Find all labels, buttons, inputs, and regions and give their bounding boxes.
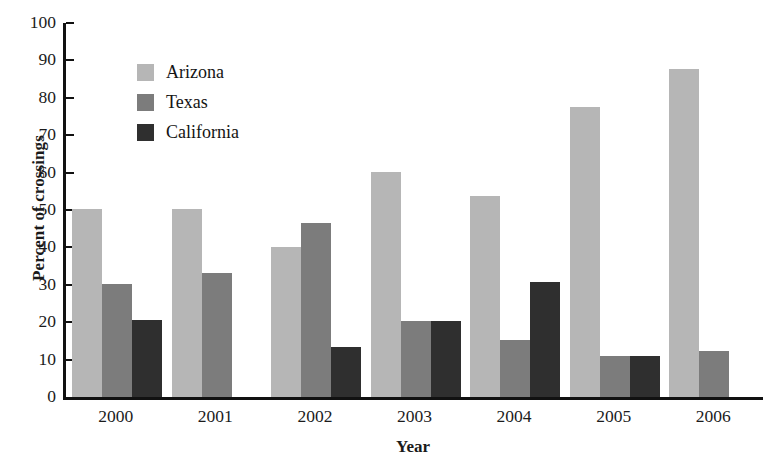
legend-swatch-icon-california <box>137 124 154 141</box>
bar-arizona-2005 <box>570 107 600 397</box>
bar-california-2004 <box>530 282 560 397</box>
y-tick-label: 80 <box>14 89 56 107</box>
bar-arizona-2004 <box>470 196 500 397</box>
y-tick-label: 0 <box>14 388 56 406</box>
x-axis-line <box>63 397 763 400</box>
bar-arizona-2001 <box>172 209 202 397</box>
bar-texas-2001 <box>202 273 232 397</box>
bar-group <box>663 23 763 397</box>
y-tick-label: 50 <box>14 201 56 219</box>
bar-chart-figure: Percent of crossings 1009080706050403020… <box>0 0 782 466</box>
bar-texas-2005 <box>600 356 630 398</box>
y-tick-label: 20 <box>14 313 56 331</box>
bar-texas-2000 <box>102 284 132 397</box>
legend-item-california: California <box>137 117 239 147</box>
x-tick-label: 2004 <box>464 406 564 427</box>
y-tick-label: 30 <box>14 276 56 294</box>
x-axis-title: Year <box>63 437 763 457</box>
bar-arizona-2003 <box>371 172 401 397</box>
x-tick-label: 2002 <box>265 406 365 427</box>
bar-arizona-2006 <box>669 69 699 397</box>
legend-label-arizona: Arizona <box>166 62 224 83</box>
y-tick-label: 70 <box>14 126 56 144</box>
y-tick-label: 10 <box>14 351 56 369</box>
y-tick-label: 100 <box>14 14 56 32</box>
bar-texas-2004 <box>500 340 530 397</box>
x-tick-label: 2001 <box>166 406 266 427</box>
legend-swatch-icon-texas <box>137 94 154 111</box>
bar-group <box>564 23 664 397</box>
y-tick-label: 60 <box>14 164 56 182</box>
bar-california-2002 <box>331 347 361 397</box>
x-tick-label: 2003 <box>365 406 465 427</box>
bar-california-2005 <box>630 356 660 398</box>
bar-texas-2002 <box>301 223 331 397</box>
bar-arizona-2002 <box>271 247 301 397</box>
x-tick-label: 2000 <box>66 406 166 427</box>
bar-arizona-2000 <box>72 209 102 397</box>
bar-group <box>365 23 465 397</box>
y-tick-label: 90 <box>14 51 56 69</box>
x-tick-label: 2005 <box>564 406 664 427</box>
legend-label-texas: Texas <box>166 92 208 113</box>
y-tick-label: 40 <box>14 238 56 256</box>
x-tick-label: 2006 <box>663 406 763 427</box>
bar-california-2003 <box>431 321 461 397</box>
bar-texas-2003 <box>401 321 431 397</box>
legend: Arizona Texas California <box>137 57 239 147</box>
bar-california-2000 <box>132 320 162 397</box>
bar-group <box>265 23 365 397</box>
scan-artifact <box>0 0 782 10</box>
legend-swatch-icon-arizona <box>137 64 154 81</box>
legend-label-california: California <box>166 122 239 143</box>
legend-item-arizona: Arizona <box>137 57 239 87</box>
bar-group <box>464 23 564 397</box>
legend-item-texas: Texas <box>137 87 239 117</box>
bar-texas-2006 <box>699 351 729 397</box>
